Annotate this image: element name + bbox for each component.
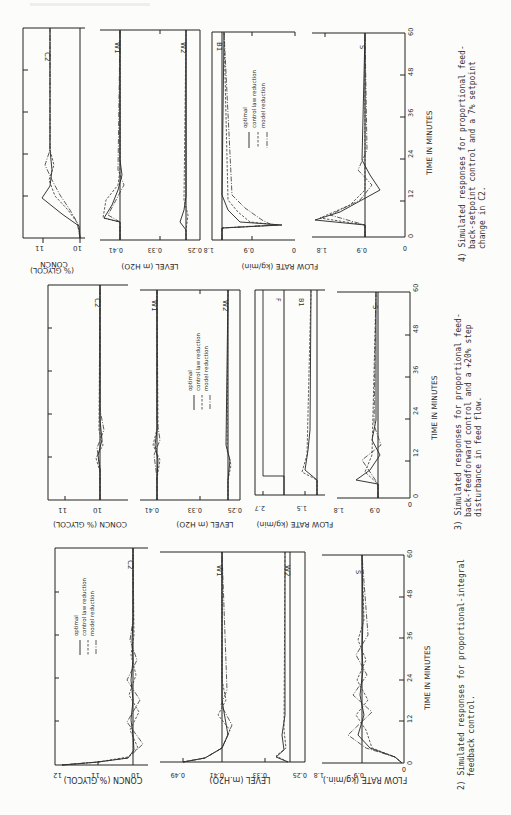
tick-label: 0.25 [228,506,242,514]
x-axis-label: TIME IN MINUTES [430,375,439,441]
figure-4: C2 11 10 CONCN (% GLYCOL) W1 W2 0.41 0.3 [23,28,487,275]
time-tick: 24 [407,150,415,158]
legend: optimal control law reduction model redu… [187,332,210,410]
legend-control-law-reduction: control law reduction [251,69,257,128]
time-tick: 60 [407,28,415,36]
time-tick: 36 [412,366,420,374]
time-axis: 0 12 24 36 48 60 TIME IN MINUTES [407,28,434,238]
series-label: B1 [215,42,223,51]
tick-label: 0.9 [370,506,380,514]
time-tick: 36 [407,109,415,117]
scanned-page: C2 11 10 CONCN (% GLYCOL) W1 W2 0.41 0.3 [0,0,511,815]
panel-concn-c2: C2 12 11 10 CONCN (% GLYCOL) optimal con… [53,548,148,784]
figure-3: C2 11 10 CONCN (% GLYCOL) W1 W2 0.41 0.3… [48,284,483,530]
time-tick: 0 [406,761,414,765]
tick-label: 0.9 [244,246,254,254]
tick-label: 0.33 [148,246,162,254]
series-label: S [354,570,362,574]
time-tick: 0 [412,494,420,498]
y-axis-label: (% GLYCOL) [30,266,74,275]
tick-label: 0 [402,765,406,773]
tick-label: 0 [403,244,407,252]
tick-label: 0.25 [293,771,307,779]
legend-model-reduction: model reduction [260,83,266,128]
panel-level-w: W1 W2 0.41 0.33 0.25 LEVEL (m H2O) [100,30,202,271]
tick-label: 11 [35,244,44,252]
legend-control-law-reduction: control law reduction [195,332,201,391]
panel-flow-b1: B1 1.8 0.9 0 FLOW RATE (kg/min) optimal … [204,32,319,271]
tick-label: 1.8 [204,246,214,254]
caption-line: back-setpoint control and a 7% setpoint [468,61,477,249]
caption-line: back-feedforward control and a +20% step [464,324,473,517]
panel-level-w: W1 W2 0.49 0.41 0.33 0.25 LEVEL (m.H2O) [160,552,307,784]
caption-line: change in C2. [478,186,487,249]
tick-label: 0.9 [357,246,367,254]
series-label: B1 [297,298,305,307]
legend: optimal control law reduction model redu… [73,577,96,655]
scan-artifact [30,3,150,6]
caption-line: disturbance in feed flow. [474,397,483,517]
panel-flow-s: S 1.8 0.9 0 FLOW RATE (kg/min.) [314,555,408,784]
time-tick: 24 [412,407,420,415]
caption-line: 3) Simulated responses for proportional … [454,313,463,530]
series-label: W1 [113,42,121,53]
time-tick: 48 [407,68,415,76]
legend-model-reduction: model reduction [203,346,209,391]
time-tick: 12 [406,715,414,723]
y-axis-label: CONCN (% GLYCOL) [64,775,143,784]
y-axis-label: LEVEL (m H2O) [176,520,233,529]
figure-caption: 3) Simulated responses for proportional … [454,313,483,530]
series-label: W1 [215,565,223,576]
tick-label: 10 [93,506,102,514]
x-axis-label: TIME IN MINUTES [423,645,432,711]
time-tick: 12 [412,449,420,457]
panel-concn-c2: C2 11 10 CONCN (% GLYCOL) [48,285,128,529]
tick-label: 0 [408,500,412,508]
y-axis-label: LEVEL (m H2O) [121,262,178,271]
legend-optimal: optimal [187,370,194,391]
figure-caption: 2) Simulated responses for proportional-… [457,559,476,790]
tick-label: 0.41 [109,246,123,254]
y-axis-label: FLOW RATE (kg/min) [242,262,319,271]
tick-label: 0.33 [188,506,202,514]
time-tick: 24 [406,674,414,682]
figure-caption: 4) Simulated responses for proportional … [458,45,487,262]
tick-label: 1.8 [314,771,324,779]
legend-optimal: optimal [73,615,80,636]
x-axis-label: TIME IN MINUTES [425,110,434,176]
tick-label: 1.8 [334,506,344,514]
panel-flow-s: S 1.8 0.9 0 [334,292,412,514]
legend: optimal control law reduction model redu… [242,69,267,148]
figure-canvas: C2 11 10 CONCN (% GLYCOL) W1 W2 0.41 0.3 [0,0,511,815]
panel-level-w: W1 W2 0.41 0.33 0.25 LEVEL (m H2O) optim… [140,290,242,529]
series-label: W2 [179,42,187,53]
panel-concn-c2: C2 11 10 CONCN (% GLYCOL) [23,28,85,275]
tick-label: 10 [73,244,82,252]
tick-label: 2.7 [255,504,265,512]
time-axis: 0 12 24 36 48 60 TIME IN MINUTES [406,550,432,765]
time-tick: 60 [412,284,420,292]
series-label: C2 [43,52,51,61]
tick-label: 0.41 [145,506,159,514]
tick-label: 1.8 [317,246,327,254]
time-tick: 60 [406,550,414,558]
panel-flow-f-b1: F B1 2.7 1.5 FLOW RATE (kg/min) [255,290,334,529]
series-label: W1 [150,300,158,311]
tick-label: 0 [292,246,296,254]
time-tick: 12 [407,190,415,198]
series-label: W2 [283,565,291,576]
series-label: F [274,298,282,302]
time-tick: 0 [407,234,415,238]
series-label: S [358,45,366,49]
legend-control-law-reduction: control law reduction [81,577,87,636]
y-axis-label: CONCN (% GLYCOL) [53,520,127,529]
y-axis-label: FLOW RATE (kg/min) [257,520,334,529]
y-axis-label: LEVEL (m.H2O) [209,775,270,784]
time-tick: 48 [406,590,414,598]
legend-model-reduction: model reduction [89,591,95,636]
caption-line: 4) Simulated responses for proportional … [458,45,467,262]
legend-optimal: optimal [242,107,249,128]
y-axis-label: FLOW RATE (kg/min.) [323,775,407,784]
figure-2: C2 12 11 10 CONCN (% GLYCOL) optimal con… [53,548,476,790]
tick-label: 12 [53,771,62,779]
